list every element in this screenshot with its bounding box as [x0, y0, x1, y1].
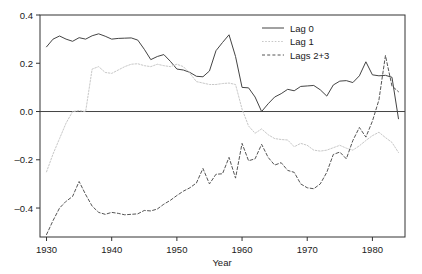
plot-frame	[40, 15, 405, 237]
chart-container: 0.40.20.0‒0.2‒0.4 1930194019501960197019…	[0, 0, 422, 274]
x-axis-title: Year	[212, 257, 231, 268]
y-tick-label: 0.4	[20, 10, 33, 21]
x-axis-ticks: 193019401950196019701980	[36, 237, 383, 255]
legend-label-0: Lag 0	[290, 23, 314, 34]
x-tick-label: 1940	[101, 244, 122, 255]
x-tick-label: 1930	[36, 244, 57, 255]
y-axis-ticks: 0.40.20.0‒0.2‒0.4	[15, 10, 41, 214]
x-tick-label: 1970	[297, 244, 318, 255]
x-tick-label: 1980	[362, 244, 383, 255]
y-tick-label: ‒0.4	[15, 203, 34, 214]
plot-background	[40, 15, 405, 237]
y-tick-label: ‒0.2	[15, 154, 34, 165]
x-tick-label: 1960	[231, 244, 252, 255]
legend-label-1: Lag 1	[290, 36, 314, 47]
line-chart: 0.40.20.0‒0.2‒0.4 1930194019501960197019…	[0, 0, 422, 274]
y-tick-label: 0.2	[20, 58, 33, 69]
x-tick-label: 1950	[166, 244, 187, 255]
legend-label-2: Lags 2+3	[290, 50, 329, 61]
y-tick-label: 0.0	[20, 106, 33, 117]
